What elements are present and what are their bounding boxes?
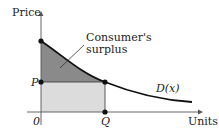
origin-label: 0	[33, 115, 40, 128]
consumer-surplus-diagram: Price Units 0 P Q D(x) Consumer's surplu…	[0, 0, 219, 136]
price-label: P	[30, 76, 39, 89]
curve-label: D(x)	[155, 82, 180, 95]
revenue-rectangle	[41, 82, 105, 112]
x-axis-label: Units	[188, 115, 218, 128]
annotation-line-2: surplus	[86, 43, 128, 56]
quantity-point	[102, 109, 107, 114]
price-point	[38, 79, 43, 84]
price-intercept-point	[38, 38, 43, 43]
y-axis-label: Price	[12, 6, 41, 19]
x-axis-arrow-icon	[198, 110, 203, 115]
equilibrium-point	[102, 79, 107, 84]
quantity-label: Q	[101, 115, 110, 128]
